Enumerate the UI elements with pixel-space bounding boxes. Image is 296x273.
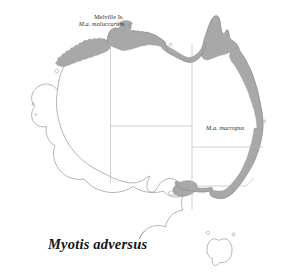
range-nsw-coast (210, 128, 263, 199)
melville-label-block: Melville Is. M.a. moluccarum (60, 13, 124, 28)
distribution-map-figure: Melville Is. M.a. moluccarum M.a. macrop… (0, 0, 296, 273)
tasmania-flinders-island (232, 233, 235, 236)
tasmania-group (206, 231, 235, 265)
range-gulf-carpentaria (162, 42, 207, 63)
island-houtman-abrolhos (35, 114, 37, 116)
tasmania-king-island (206, 231, 209, 234)
range-kimberley (56, 38, 111, 67)
range-south-australia-patch (171, 178, 199, 199)
range-shading-group (56, 16, 264, 199)
island-kimberley-offshore (55, 69, 59, 72)
melville-island-label: Melville Is. (60, 13, 124, 20)
island-fraser (264, 120, 266, 123)
subspecies-macropus-label: M.a. macropus (206, 124, 244, 131)
australia-map (0, 0, 296, 273)
island-groote-eylandt (169, 43, 172, 46)
subspecies-moluccarum-label: M.a. moluccarum (60, 20, 124, 27)
species-title: Myotis adversus (48, 236, 147, 253)
tasmania-outline (207, 239, 232, 266)
border-nsw-qld-segment (246, 178, 254, 186)
